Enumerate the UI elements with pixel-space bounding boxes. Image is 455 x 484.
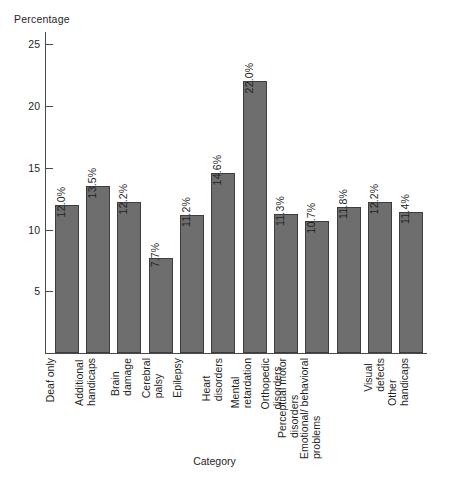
x-axis-label-group: Emotional/ behavioralproblems [337,356,361,456]
bar-group: 12.2% [117,32,141,353]
x-axis-label-group: Epilepsy [180,356,204,456]
bar-value-label: 11.4% [399,194,411,224]
x-axis-category-label: Visualdefects [363,358,386,392]
y-axis-tick-label: 10 [10,224,40,236]
x-axis-label-group: Additionalhandicaps [86,356,110,456]
y-axis-title: Percentage [14,13,70,25]
x-axis-category-label: Cerebralpalsy [141,358,164,398]
bar-group: 22.0% [243,32,267,353]
bar-group: 12.0% [55,32,79,353]
bar-chart: Percentage 510152025 12.0%13.5%12.2%7.7%… [0,0,455,484]
bar-value-label: 12.0% [55,186,67,217]
x-axis-title-text: Category [193,455,236,467]
x-axis-category-label: Epilepsy [172,358,184,398]
x-axis-category-label: Additionalhandicaps [74,358,97,406]
bar[interactable] [86,186,110,353]
bar[interactable] [399,212,423,353]
bar-value-label: 11.8% [337,189,349,219]
bar-group: 12.2% [368,32,392,353]
bar[interactable] [211,173,235,353]
bar[interactable] [305,221,329,353]
plot-area: 12.0%13.5%12.2%7.7%11.2%14.6%22.0%11.3%1… [46,32,427,353]
bar-value-label: 22.0% [243,63,255,94]
y-axis-tick-label: 25 [10,38,40,50]
bar-group: 11.2% [180,32,204,353]
x-axis-category-label: Braindamage [110,358,133,396]
bar-group: 11.4% [399,32,423,353]
bar-group: 10.7% [305,32,329,353]
page-edge-artifact-1 [350,452,352,459]
bar[interactable] [55,205,79,353]
bar-value-label: 12.2% [117,184,129,215]
bar-value-label: 10.7% [305,203,317,234]
x-axis-category-label: Emotional/ behavioralproblems [298,358,321,459]
x-axis-label-group: Cerebralpalsy [149,356,173,456]
bar-value-label: 11.2% [180,197,192,227]
x-axis-category-label: Mentalretardation [230,358,253,408]
y-axis-tick-label: 20 [10,100,40,112]
page-edge-artifact-2 [300,474,302,481]
x-axis-category-label: Heartdisorders [202,358,225,401]
x-axis-label-group: Otherhandicaps [399,356,423,456]
bar-value-label: 14.6% [211,154,223,185]
bar-group: 11.3% [274,32,298,353]
bar[interactable] [274,214,298,354]
bar-group: 11.8% [337,32,361,353]
y-axis-tick-label: 5 [10,285,40,297]
bar[interactable] [149,258,173,353]
bar-value-label: 12.2% [368,184,380,215]
bar-group: 14.6% [211,32,235,353]
y-axis-tick-label: 15 [10,162,40,174]
bar[interactable] [117,202,141,353]
x-axis-line [45,353,427,354]
x-axis-title: Category [0,455,455,467]
x-axis-category-labels: Deaf onlyAdditionalhandicapsBraindamageC… [46,356,427,456]
bar-group: 7.7% [149,32,173,353]
bar[interactable] [337,207,361,353]
bar[interactable] [180,215,204,353]
bar-value-label: 7.7% [149,243,161,268]
bar-value-label: 13.5% [86,168,98,199]
x-axis-category-label: Otherhandicaps [387,358,410,406]
bar-value-label: 11.3% [274,196,286,226]
x-axis-category-label: Deaf only [44,358,56,402]
bar[interactable] [368,202,392,353]
x-axis-label-group: Braindamage [117,356,141,456]
bar-group: 13.5% [86,32,110,353]
bar[interactable] [243,81,267,353]
